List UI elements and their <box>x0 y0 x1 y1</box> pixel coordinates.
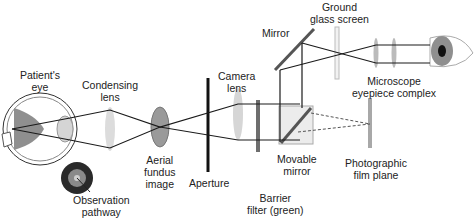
label-aerial-fundus-image: Aerialfundusimage <box>144 154 176 190</box>
label-condensing-lens: Condensinglens <box>82 79 138 103</box>
optical-diagram <box>0 0 476 219</box>
observation-pathway-disc <box>61 162 93 194</box>
label-movable-mirror: Movablemirror <box>277 153 317 177</box>
label-mirror: Mirror <box>262 27 289 39</box>
label-microscope-eyepiece: Microscopeeyepiece complex <box>352 75 436 99</box>
label-patients-eye: Patient'seye <box>20 69 60 93</box>
label-aperture: Aperture <box>189 177 229 189</box>
barrier-filter <box>256 100 260 152</box>
label-photographic-film-plane: Photographicfilm plane <box>345 157 407 181</box>
label-observation-pathway: Observationpathway <box>73 194 130 218</box>
camera-lens <box>233 88 243 140</box>
label-barrier-filter: Barrierfilter (green) <box>247 192 304 216</box>
observer-eye <box>430 36 473 67</box>
label-camera-lens: Cameralens <box>218 70 255 94</box>
condensing-lens <box>105 107 115 151</box>
label-ground-glass-screen: Groundglass screen <box>310 1 369 25</box>
photographic-film-plane <box>368 98 372 148</box>
